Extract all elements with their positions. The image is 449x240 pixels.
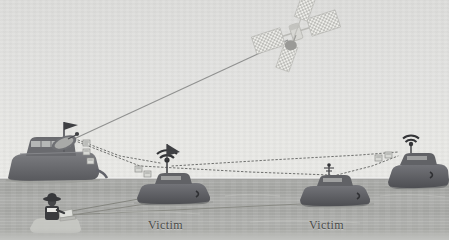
- operator-figure: [30, 193, 81, 233]
- victim-right-antenna-icon: [324, 163, 334, 175]
- link-victim-center-to-far-right: [172, 152, 398, 166]
- satellite-solar-panel-right: [307, 10, 341, 36]
- mast-flag-icon: [64, 122, 78, 130]
- diagram-canvas: Victim Victim: [0, 0, 449, 240]
- satellite-solar-panel-left: [251, 28, 285, 54]
- packet-icons-victim-center: [135, 166, 151, 177]
- receiver-vessel-right: [385, 135, 449, 189]
- satellite: [243, 0, 349, 80]
- bottom-edge-fade: [0, 229, 449, 240]
- diagram-vector-layer: [0, 0, 449, 240]
- operator-hat-icon: [43, 193, 61, 202]
- link-victim-right-to-far-right: [333, 156, 398, 176]
- victim-vessel-right: [297, 163, 374, 207]
- receiver-antenna-signal-icon: [403, 135, 419, 153]
- link-uplink-attacker-satellite: [76, 40, 288, 138]
